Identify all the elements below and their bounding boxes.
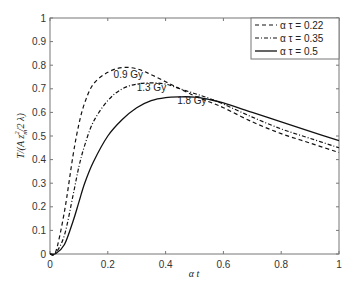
- y-tick-label: 0.7: [32, 83, 46, 94]
- y-axis-label: T/(A zm2/2 λ): [13, 113, 29, 159]
- y-tick-label: 1: [40, 13, 46, 24]
- y-tick-label: 0.1: [32, 225, 46, 236]
- y-tick-label: 0.5: [32, 131, 46, 142]
- legend-label-0: α τ = 0.22: [280, 20, 324, 31]
- legend-label-2: α τ = 0.5: [280, 46, 318, 57]
- x-axis-label: α t: [189, 268, 200, 279]
- y-tick-label: 0.9: [32, 36, 46, 47]
- y-tick-label: 0.3: [32, 178, 46, 189]
- y-tick-label: 0.4: [32, 154, 46, 165]
- dose-label-0: 0.9 Gy: [114, 69, 143, 80]
- legend-label-1: α τ = 0.35: [280, 33, 324, 44]
- y-tick-label: 0.8: [32, 60, 46, 71]
- x-tick-label: 0.4: [159, 259, 173, 270]
- legend: α τ = 0.22 α τ = 0.35 α τ = 0.5: [251, 18, 339, 59]
- x-tick-label: 0.8: [274, 259, 288, 270]
- y-tick-label: 0: [40, 249, 46, 260]
- dose-label-1: 1.3 Gy: [137, 82, 166, 93]
- y-tick-label: 0.6: [32, 107, 46, 118]
- y-label-main: T/(A z: [15, 135, 27, 159]
- x-tick-label: 0: [47, 259, 53, 270]
- dose-label-2: 1.8 Gy: [177, 95, 206, 106]
- x-tick-label: 1: [336, 259, 342, 270]
- x-tick-label: 0.2: [101, 259, 115, 270]
- y-label-tail: /2 λ): [15, 113, 27, 133]
- x-tick-label: 0.6: [216, 259, 230, 270]
- chart: 00.10.20.30.40.50.60.70.80.91 00.20.40.6…: [0, 0, 352, 291]
- y-tick-label: 0.2: [32, 201, 46, 212]
- svg-text:T/(A zm2/2 λ): T/(A zm2/2 λ): [13, 113, 29, 159]
